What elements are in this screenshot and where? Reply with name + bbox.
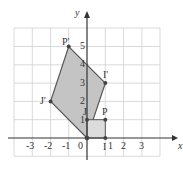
coordinate-figure: x y 0 -3 -2 -1 1 2 3 1 2 3 4 5 P' I' J' … (0, 0, 183, 169)
x-tick: -3 (26, 140, 34, 151)
y-tick: 5 (80, 40, 85, 51)
x-tick: -2 (44, 140, 52, 151)
point-label-j: J (83, 106, 87, 117)
point-label-j-prime: J' (40, 95, 46, 106)
point-label-i-prime: I' (103, 69, 108, 80)
point-label-p: P (102, 106, 108, 117)
x-tick: 3 (139, 140, 144, 151)
y-tick: 2 (80, 95, 85, 106)
x-tick: 2 (121, 140, 126, 151)
y-tick: 4 (80, 58, 85, 69)
y-axis-label: y (74, 7, 80, 18)
point-label-p-prime: P' (62, 36, 70, 47)
point-label-i: I (103, 141, 106, 152)
x-tick: 1 (108, 140, 113, 151)
original-square (87, 120, 105, 138)
y-arrow-icon (84, 11, 90, 18)
y-tick: 3 (80, 77, 85, 88)
x-axis-label: x (177, 140, 183, 151)
x-tick: -1 (62, 140, 70, 151)
origin-label: 0 (78, 140, 83, 151)
